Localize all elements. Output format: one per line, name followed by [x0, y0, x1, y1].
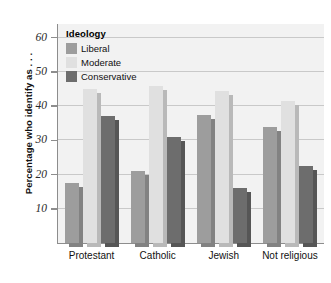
x-axis-label-not-religious: Not religious — [257, 250, 323, 261]
y-tick-mark — [51, 174, 57, 176]
bar-body — [281, 101, 295, 243]
y-tick-label: 60 — [21, 32, 47, 44]
bar-not-religious-liberal[interactable] — [263, 127, 277, 243]
y-tick-label: 50 — [21, 66, 47, 78]
legend-entry-liberal[interactable]: Liberal — [66, 42, 136, 54]
y-tick-mark — [51, 140, 57, 142]
bar-not-religious-moderate[interactable] — [281, 101, 295, 243]
bar-body — [215, 91, 229, 243]
bar-catholic-conservative[interactable] — [167, 137, 181, 243]
legend-label: Liberal — [81, 43, 110, 54]
y-tick-label: 10 — [21, 203, 47, 215]
bar-body — [299, 166, 313, 243]
y-tick-mark — [51, 105, 57, 107]
bar-body — [263, 127, 277, 243]
bar-body — [197, 115, 211, 243]
y-tick-mark — [51, 37, 57, 39]
bar-not-religious-conservative[interactable] — [299, 166, 313, 243]
legend-title: Ideology — [66, 28, 136, 39]
y-tick-label: 40 — [21, 100, 47, 112]
legend-label: Moderate — [81, 57, 121, 68]
bar-body — [167, 137, 181, 243]
y-tick-mark — [51, 71, 57, 73]
bar-body — [65, 183, 79, 243]
bar-chart: Percentage who identify as . . . 1020304… — [0, 0, 331, 283]
bar-group-jewish — [191, 24, 257, 243]
legend-entry-conservative[interactable]: Conservative — [66, 70, 136, 82]
y-tick-label: 30 — [21, 134, 47, 146]
x-axis-label-protestant: Protestant — [59, 250, 125, 261]
bar-body — [233, 188, 247, 243]
bar-protestant-conservative[interactable] — [101, 116, 115, 243]
y-tick-label: 20 — [21, 169, 47, 181]
legend-swatch-moderate-icon — [66, 57, 77, 68]
bar-jewish-liberal[interactable] — [197, 115, 211, 243]
x-axis-label-catholic: Catholic — [125, 250, 191, 261]
bar-protestant-moderate[interactable] — [83, 89, 97, 243]
legend-swatch-conservative-icon — [66, 71, 77, 82]
legend-label: Conservative — [81, 71, 136, 82]
bar-catholic-liberal[interactable] — [131, 171, 145, 243]
legend-entry-moderate[interactable]: Moderate — [66, 56, 136, 68]
bar-group-not-religious — [257, 24, 323, 243]
bar-body — [131, 171, 145, 243]
bar-jewish-moderate[interactable] — [215, 91, 229, 243]
legend-entries: LiberalModerateConservative — [66, 42, 136, 82]
bar-body — [149, 86, 163, 243]
y-tick-mark — [51, 208, 57, 210]
bar-body — [83, 89, 97, 243]
bar-catholic-moderate[interactable] — [149, 86, 163, 243]
x-axis-label-jewish: Jewish — [191, 250, 257, 261]
legend-swatch-liberal-icon — [66, 43, 77, 54]
bar-protestant-liberal[interactable] — [65, 183, 79, 243]
bar-body — [101, 116, 115, 243]
y-axis-title: Percentage who identify as . . . — [23, 34, 34, 214]
bar-jewish-conservative[interactable] — [233, 188, 247, 243]
legend: Ideology LiberalModerateConservative — [66, 28, 136, 84]
